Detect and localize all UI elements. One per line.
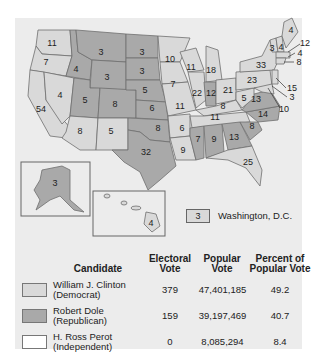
republican-swatch <box>22 309 47 323</box>
header-percent-2: Popular Vote <box>242 264 318 274</box>
label-al: 9 <box>211 134 216 144</box>
label-az: 8 <box>77 126 82 136</box>
label-ct: 8 <box>296 57 301 67</box>
popular-vote: 8,085,294 <box>185 336 260 347</box>
label-ma: 12 <box>300 38 310 48</box>
table-row-perot: H. Ross Perot(Independent) 0 8,085,294 8… <box>20 332 300 358</box>
dc-label: Washington, D.C. <box>218 210 292 221</box>
label-pa: 23 <box>247 75 257 85</box>
label-nv: 4 <box>57 90 62 100</box>
table-row-clinton: William J. Clinton(Democrat) 379 47,401,… <box>20 280 300 306</box>
label-mo: 11 <box>175 101 184 111</box>
independent-swatch <box>22 335 47 349</box>
state-ct <box>276 58 286 64</box>
label-nd: 3 <box>139 47 144 57</box>
label-sc: 8 <box>249 121 254 131</box>
label-md: 10 <box>279 104 289 114</box>
label-mn: 10 <box>165 54 175 64</box>
label-tx: 32 <box>141 147 151 157</box>
label-nm: 5 <box>108 126 113 136</box>
popular-vote: 47,401,185 <box>185 284 260 295</box>
island-kauai <box>104 194 110 198</box>
label-mi: 18 <box>206 65 216 75</box>
label-wy: 3 <box>104 72 109 82</box>
label-ne: 5 <box>142 85 147 95</box>
label-vt: 3 <box>269 43 274 53</box>
popular-vote: 39,197,469 <box>185 310 260 321</box>
label-ut: 5 <box>82 95 87 105</box>
candidate-name: William J. Clinton(Democrat) <box>53 280 126 300</box>
candidate-name: H. Ross Perot(Independent) <box>53 332 112 352</box>
label-wi: 11 <box>186 62 195 72</box>
label-oh: 21 <box>223 85 233 95</box>
label-ak: 3 <box>52 178 57 188</box>
label-wv: 5 <box>241 93 246 103</box>
label-mt: 3 <box>98 47 103 57</box>
label-id: 4 <box>73 64 78 74</box>
label-ca: 54 <box>36 104 46 114</box>
label-hi: 4 <box>148 218 153 228</box>
democrat-swatch <box>22 283 47 297</box>
label-va: 13 <box>251 94 261 104</box>
island-oahu <box>121 201 127 205</box>
label-or: 7 <box>43 57 48 67</box>
label-ms: 7 <box>195 134 200 144</box>
popular-percent: 8.4 <box>250 336 310 347</box>
label-me: 4 <box>288 25 293 35</box>
label-de: 3 <box>289 92 294 102</box>
label-la: 9 <box>180 145 185 155</box>
label-ny: 33 <box>256 60 266 70</box>
label-ga: 13 <box>229 132 239 142</box>
label-tn: 11 <box>210 112 219 122</box>
popular-percent: 49.2 <box>250 284 310 295</box>
island-maui <box>131 206 141 210</box>
label-ia: 7 <box>170 79 175 89</box>
label-ok: 8 <box>155 123 160 133</box>
leader-de <box>272 86 287 97</box>
label-ky: 8 <box>220 101 225 111</box>
header-candidate: Candidate <box>58 264 138 274</box>
popular-percent: 40.7 <box>250 310 310 321</box>
state-nj <box>272 70 278 84</box>
state-ma <box>276 52 290 58</box>
label-co: 8 <box>112 99 117 109</box>
label-il: 22 <box>192 88 202 98</box>
state-ak <box>34 166 84 212</box>
label-nc: 14 <box>258 109 268 119</box>
label-ar: 6 <box>179 123 184 133</box>
candidate-name: Robert Dole(Republican) <box>53 306 107 326</box>
state-mi <box>206 46 222 82</box>
dc-votes-box: 3 <box>186 209 210 223</box>
table-row-dole: Robert Dole(Republican) 159 39,197,469 4… <box>20 306 300 332</box>
label-fl: 25 <box>243 157 253 167</box>
header-electoral-2: Vote <box>140 264 200 274</box>
label-ks: 6 <box>149 103 154 113</box>
label-wa: 11 <box>47 38 56 48</box>
label-sd: 3 <box>139 66 144 76</box>
label-nh: 4 <box>278 42 283 52</box>
label-in: 12 <box>206 88 216 98</box>
